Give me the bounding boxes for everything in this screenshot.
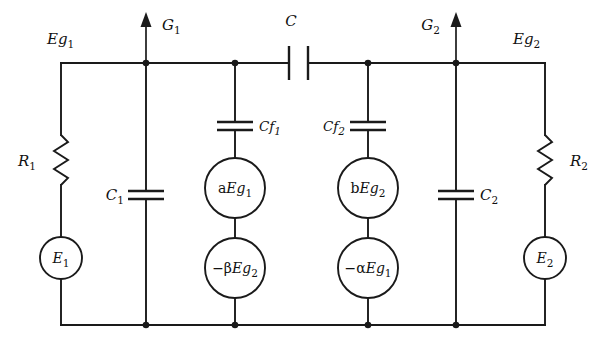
schematic-canvas: C G1 G2 Eg1 Eg2 R1 bbox=[0, 0, 602, 344]
circuit-diagram: C G1 G2 Eg1 Eg2 R1 bbox=[0, 0, 602, 344]
arrow-G1-head bbox=[141, 12, 152, 27]
branch-left-input: R1 E1 bbox=[17, 63, 82, 325]
branch-C1: C1 bbox=[106, 63, 164, 328]
label-C2: C2 bbox=[480, 186, 498, 206]
node-dot-left-feedback-bottom bbox=[232, 322, 239, 329]
arrow-G2-head bbox=[451, 12, 462, 27]
label-Cf2: Cf2 bbox=[323, 118, 345, 137]
branch-right-feedback: Cf2 bEg2 −αEg1 bbox=[323, 63, 398, 328]
label-G1: G1 bbox=[162, 16, 181, 36]
resistor-R1-symbol bbox=[54, 135, 68, 185]
current-arrow-G2: G2 bbox=[421, 12, 461, 66]
node-dot-right-feedback-bottom bbox=[365, 322, 372, 329]
capacitor-C-label: C bbox=[285, 12, 297, 30]
node-dot-C2-bottom bbox=[453, 322, 460, 329]
node-dot-C1-bottom bbox=[143, 322, 150, 329]
branch-left-feedback: Cf1 aEg1 −βEg2 bbox=[205, 63, 281, 328]
resistor-R2-symbol bbox=[538, 135, 552, 185]
capacitor-C: C bbox=[285, 12, 308, 80]
label-R1: R1 bbox=[17, 152, 36, 172]
label-Eg2: Eg2 bbox=[512, 30, 540, 50]
label-C1: C1 bbox=[106, 186, 124, 206]
branch-C2: C2 bbox=[438, 63, 498, 328]
label-G2: G2 bbox=[421, 16, 440, 36]
branch-right-output: R2 E2 bbox=[524, 63, 588, 325]
label-Cf1: Cf1 bbox=[259, 118, 281, 137]
label-R2: R2 bbox=[569, 152, 588, 172]
label-Eg1: Eg1 bbox=[46, 30, 74, 50]
current-arrow-G1: G1 bbox=[141, 12, 181, 66]
